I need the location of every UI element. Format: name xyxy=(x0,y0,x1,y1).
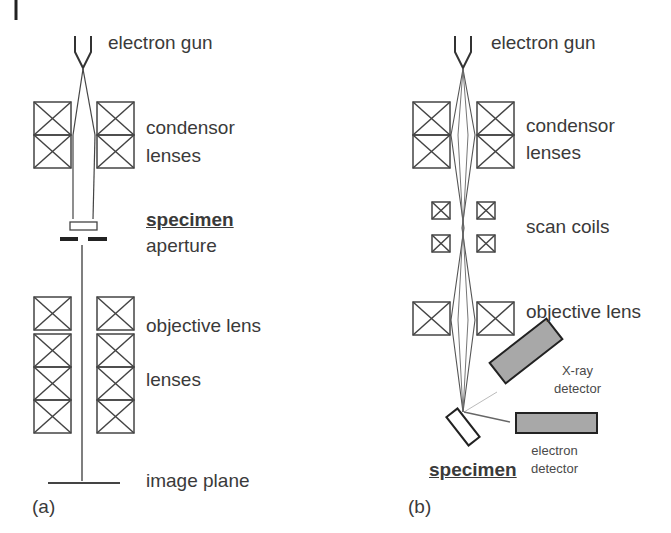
label-xray-detector: X-ray detector xyxy=(554,362,601,397)
label-lenses-a: lenses xyxy=(146,146,201,165)
panel-a-label: (a) xyxy=(32,497,55,516)
condenser-lens-right xyxy=(477,102,514,168)
condenser-lens-left xyxy=(34,102,71,168)
aperture-right xyxy=(88,237,107,241)
label-aperture-a: aperture xyxy=(146,236,217,255)
condenser-lens-right xyxy=(97,102,134,168)
label-specimen-b: specimen xyxy=(429,460,517,479)
label-specimen-a: specimen xyxy=(146,210,234,229)
label-objective-lens-a: objective lens xyxy=(146,316,261,335)
aperture-left xyxy=(60,237,78,241)
label-objective-lens-b: objective lens xyxy=(526,302,641,321)
tem-diagram xyxy=(34,36,134,483)
label-electron-line1: electron xyxy=(531,443,577,458)
electron-gun-icon xyxy=(455,36,471,68)
label-condensor-b: condensor xyxy=(526,116,615,135)
projector-lenses-right xyxy=(97,334,134,433)
label-lenses-b: lenses xyxy=(526,143,581,162)
label-image-plane: image plane xyxy=(146,471,250,490)
condenser-lens-left xyxy=(413,102,450,168)
objective-lens-left xyxy=(413,302,450,335)
label-scan-coils: scan coils xyxy=(526,217,609,236)
panel-b-label: (b) xyxy=(408,497,431,516)
label-electron-gun-a: electron gun xyxy=(108,33,213,52)
objective-lens-left xyxy=(34,297,71,330)
label-electron-detector: electron detector xyxy=(531,442,578,477)
label-xray-line2: detector xyxy=(554,381,601,396)
objective-lens-right xyxy=(477,302,514,335)
electron-gun-icon xyxy=(75,36,91,68)
projector-lenses-left xyxy=(34,334,71,433)
xray-detector-shape xyxy=(490,319,563,384)
label-electron-gun-b: electron gun xyxy=(491,33,596,52)
objective-lens-right xyxy=(97,297,134,330)
label-condensor-a: condensor xyxy=(146,118,235,137)
label-electron-line2: detector xyxy=(531,461,578,476)
electron-detector-shape xyxy=(516,413,597,433)
label-xray-line1: X-ray xyxy=(562,363,593,378)
label-lenses-a2: lenses xyxy=(146,370,201,389)
specimen-shape xyxy=(70,222,97,230)
